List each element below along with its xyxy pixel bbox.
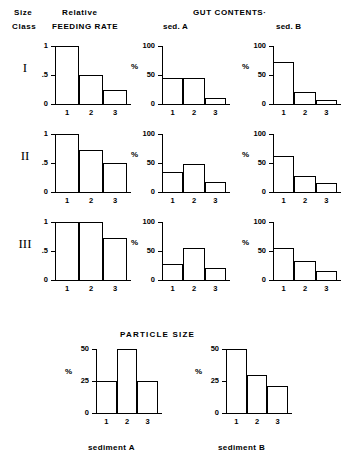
x-tick-label: 1 bbox=[61, 196, 73, 205]
x-tick-label: 2 bbox=[188, 284, 200, 293]
x-axis bbox=[55, 192, 131, 193]
y-tick-label: 0 bbox=[129, 275, 155, 284]
y-tick bbox=[92, 413, 96, 414]
y-tick bbox=[92, 349, 96, 350]
sediment-b-label: sediment B bbox=[218, 443, 265, 452]
y-tick-label: 0 bbox=[129, 187, 155, 196]
x-tick-label: 2 bbox=[251, 417, 263, 426]
x-tick-label: 1 bbox=[100, 417, 112, 426]
particle-size-label: PARTICLE SIZE bbox=[120, 330, 195, 339]
sediment-a-label: sediment A bbox=[88, 443, 135, 452]
y-tick-label: 50 bbox=[240, 246, 266, 255]
x-tick-label: 2 bbox=[299, 284, 311, 293]
x-tick-label: 1 bbox=[278, 196, 290, 205]
x-tick-label: 3 bbox=[320, 196, 332, 205]
percent-axis-label: % bbox=[242, 150, 249, 159]
y-tick-label: 50 bbox=[129, 246, 155, 255]
y-tick-label: .5 bbox=[22, 70, 48, 79]
y-tick-label: 1 bbox=[22, 217, 48, 226]
y-tick-label: 100 bbox=[240, 129, 266, 138]
y-tick-label: 0 bbox=[22, 275, 48, 284]
histogram-bar bbox=[96, 381, 117, 413]
y-tick-label: 50 bbox=[193, 344, 219, 353]
x-tick-label: 2 bbox=[188, 196, 200, 205]
x-axis bbox=[162, 192, 230, 193]
y-tick-label: 0 bbox=[129, 99, 155, 108]
x-tick-label: 1 bbox=[61, 284, 73, 293]
feeding-rate-label: FEEDING RATE bbox=[52, 22, 118, 31]
histogram-3: 050100%123 bbox=[273, 46, 337, 104]
histogram-bar bbox=[294, 176, 315, 192]
y-tick bbox=[269, 104, 273, 105]
y-tick bbox=[269, 134, 273, 135]
y-tick-label: 0 bbox=[240, 275, 266, 284]
x-tick-label: 3 bbox=[209, 284, 221, 293]
y-tick bbox=[158, 163, 162, 164]
class-label: Class bbox=[12, 22, 36, 31]
y-tick-label: 0 bbox=[63, 408, 89, 417]
histogram-bar bbox=[162, 264, 183, 280]
y-tick-label: 1 bbox=[22, 41, 48, 50]
histogram-8: 050100%123 bbox=[162, 222, 226, 280]
histogram-bar bbox=[205, 182, 226, 192]
x-tick-label: 2 bbox=[299, 196, 311, 205]
y-tick-label: 0 bbox=[240, 187, 266, 196]
y-tick-label: 0 bbox=[22, 187, 48, 196]
histogram-bar bbox=[273, 248, 294, 280]
y-tick bbox=[158, 104, 162, 105]
histogram-bar bbox=[79, 222, 103, 280]
x-tick-label: 1 bbox=[278, 284, 290, 293]
histogram-bar bbox=[226, 349, 247, 413]
histogram-bar bbox=[267, 386, 288, 413]
histogram-2: 050100%123 bbox=[162, 46, 226, 104]
x-tick-label: 1 bbox=[167, 196, 179, 205]
x-axis bbox=[273, 192, 341, 193]
histogram-11: 02550%123 bbox=[226, 349, 288, 413]
histogram-4: 0.51123 bbox=[55, 134, 127, 192]
histogram-bar bbox=[183, 78, 204, 104]
histogram-bar bbox=[117, 349, 138, 413]
histogram-7: 0.51123 bbox=[55, 222, 127, 280]
x-tick-label: 3 bbox=[109, 196, 121, 205]
y-tick bbox=[269, 192, 273, 193]
percent-axis-label: % bbox=[65, 367, 72, 376]
y-tick-label: 25 bbox=[193, 376, 219, 385]
histogram-bar bbox=[55, 46, 79, 104]
histogram-6: 050100%123 bbox=[273, 134, 337, 192]
histogram-bar bbox=[162, 78, 183, 104]
x-axis bbox=[162, 104, 230, 105]
x-tick-label: 1 bbox=[230, 417, 242, 426]
y-tick-label: 50 bbox=[240, 70, 266, 79]
percent-axis-label: % bbox=[131, 150, 138, 159]
y-tick bbox=[269, 46, 273, 47]
y-tick bbox=[269, 280, 273, 281]
histogram-bar bbox=[273, 156, 294, 192]
gut-contents-label: GUT CONTENTS· bbox=[193, 8, 267, 17]
percent-axis-label: % bbox=[242, 62, 249, 71]
y-tick-label: 50 bbox=[63, 344, 89, 353]
relative-label: Relative bbox=[62, 8, 97, 17]
y-tick bbox=[158, 46, 162, 47]
y-tick-label: 50 bbox=[129, 70, 155, 79]
x-tick-label: 2 bbox=[188, 108, 200, 117]
y-tick bbox=[51, 104, 55, 105]
y-tick bbox=[51, 192, 55, 193]
x-tick-label: 1 bbox=[61, 108, 73, 117]
y-tick bbox=[158, 251, 162, 252]
y-tick-label: 100 bbox=[240, 41, 266, 50]
x-axis bbox=[273, 280, 341, 281]
y-tick-label: 25 bbox=[63, 376, 89, 385]
histogram-bar bbox=[103, 90, 127, 105]
histogram-bar bbox=[183, 164, 204, 192]
x-axis bbox=[55, 104, 131, 105]
x-tick-label: 3 bbox=[109, 108, 121, 117]
histogram-bar bbox=[294, 92, 315, 104]
y-tick-label: 0 bbox=[240, 99, 266, 108]
y-tick bbox=[158, 134, 162, 135]
histogram-bar bbox=[205, 98, 226, 104]
y-tick bbox=[158, 75, 162, 76]
sed-a-label: sed. A bbox=[163, 22, 188, 31]
y-tick bbox=[51, 280, 55, 281]
y-tick-label: 0 bbox=[22, 99, 48, 108]
